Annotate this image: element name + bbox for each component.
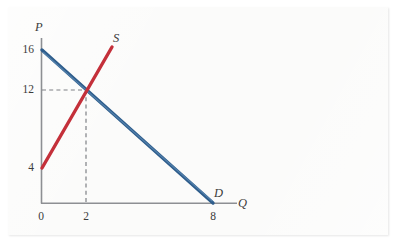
- x-tick-label-2: 2: [75, 210, 97, 222]
- supply-curve-label: S: [113, 31, 119, 46]
- demand-curve-label: D: [214, 186, 223, 201]
- y-tick-label-4: 4: [8, 161, 34, 173]
- y-tick-label-16: 16: [8, 43, 34, 55]
- supply-demand-figure-screenshot: P Q S D 16 12 4 0 2 8: [0, 0, 396, 243]
- x-tick-label-8: 8: [202, 210, 224, 222]
- demand-curve-highlight: [44, 53, 213, 202]
- supply-curve: [42, 47, 112, 168]
- y-axis-label: P: [35, 20, 43, 35]
- y-tick-label-12: 12: [8, 83, 34, 95]
- x-tick-label-0: 0: [30, 210, 52, 222]
- x-axis-label: Q: [238, 196, 247, 211]
- supply-demand-plot: [0, 0, 396, 243]
